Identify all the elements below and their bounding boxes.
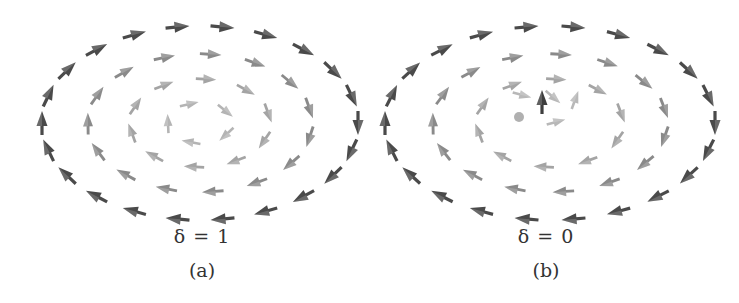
spin-arrow-icon	[501, 51, 524, 65]
vortex-core-dot-icon	[514, 112, 524, 122]
spin-arrow-icon	[143, 147, 165, 165]
vortex-diagram-b	[370, 0, 739, 230]
spin-arrow-icon	[432, 84, 453, 107]
spin-arrow-icon	[710, 111, 721, 135]
spin-arrow-icon	[83, 186, 109, 207]
core-spin-arrow-icon	[512, 88, 533, 101]
spin-arrow-icon	[341, 82, 361, 108]
spin-arrow-icon	[473, 95, 492, 117]
panel-a	[0, 0, 370, 230]
spin-arrow-icon	[468, 203, 494, 220]
spin-arrow-icon	[153, 51, 176, 65]
spin-arrow-icon	[546, 74, 567, 84]
spin-arrow-icon	[429, 39, 455, 60]
core-spin-arrow-icon	[546, 115, 567, 128]
panel-label-b: (b)	[486, 259, 606, 281]
spin-arrow-icon	[514, 213, 539, 226]
spin-arrow-icon	[210, 212, 235, 225]
spin-arrow-icon	[613, 102, 629, 124]
spin-arrow-icon	[255, 129, 274, 151]
spin-arrow-icon	[38, 82, 58, 108]
spin-arrow-icon	[380, 111, 391, 135]
spin-arrow-icon	[320, 58, 345, 83]
parameter-label-b: δ = 0	[486, 225, 606, 247]
panel-label-a: (a)	[142, 259, 262, 281]
spin-arrow-icon	[260, 102, 276, 124]
spin-arrow-icon	[461, 165, 485, 184]
spin-arrow-icon	[124, 122, 140, 144]
spin-arrow-icon	[577, 153, 599, 169]
spin-arrow-icon	[428, 113, 438, 135]
spin-arrow-icon	[55, 58, 80, 83]
spin-arrow-icon	[676, 58, 701, 82]
spin-arrow-icon	[459, 63, 483, 82]
spin-arrow-icon	[83, 113, 93, 135]
spin-arrow-icon	[471, 122, 487, 144]
vortex-diagram-a	[0, 0, 370, 230]
spin-arrow-icon	[181, 136, 201, 148]
spin-arrow-icon	[184, 162, 205, 172]
spin-arrow-icon	[210, 20, 235, 33]
panel-b	[370, 0, 739, 230]
spin-arrow-icon	[433, 140, 454, 163]
spin-arrow-icon	[165, 212, 190, 225]
spin-arrow-icon	[153, 77, 175, 93]
spin-arrow-icon	[290, 186, 316, 207]
spin-arrow-icon	[225, 153, 247, 169]
spin-arrow-icon	[645, 39, 671, 60]
spin-arrow-icon	[598, 174, 622, 190]
spin-arrow-icon	[353, 111, 364, 135]
spin-arrow-icon	[37, 111, 48, 135]
spin-arrow-icon	[87, 84, 108, 107]
spin-arrow-icon	[280, 152, 303, 174]
spin-arrow-icon	[491, 147, 513, 165]
spin-arrow-icon	[561, 20, 586, 33]
spin-arrow-icon	[606, 203, 632, 220]
spin-arrow-icon	[202, 186, 224, 197]
spin-arrow-icon	[290, 39, 316, 60]
parameter-label-a: δ = 1	[142, 225, 262, 247]
spin-arrow-icon	[216, 125, 236, 144]
core-spin-arrow-icon	[537, 90, 548, 114]
spin-arrow-icon	[676, 163, 701, 187]
spin-arrow-icon	[165, 20, 190, 33]
spin-arrow-icon	[121, 203, 147, 220]
spin-arrow-icon	[381, 137, 402, 163]
spin-arrow-icon	[126, 95, 145, 117]
spin-arrow-icon	[88, 140, 109, 163]
spin-arrow-icon	[468, 26, 494, 43]
spin-arrow-icon	[656, 96, 673, 120]
spin-arrow-icon	[550, 49, 572, 60]
spin-arrow-icon	[634, 152, 657, 173]
spin-arrow-icon	[399, 58, 424, 82]
spin-arrow-icon	[429, 186, 455, 207]
spin-arrow-icon	[632, 71, 655, 92]
spin-arrow-icon	[561, 213, 586, 226]
spin-arrow-icon	[243, 55, 267, 71]
spin-arrow-icon	[698, 137, 719, 163]
spin-arrow-icon	[656, 125, 672, 149]
spin-arrow-icon	[341, 137, 361, 163]
spin-arrow-icon	[245, 174, 269, 191]
spin-arrow-icon	[121, 26, 147, 43]
spin-arrow-icon	[608, 129, 627, 151]
spin-arrow-icon	[235, 81, 257, 99]
spin-arrow-icon	[253, 26, 279, 43]
spin-arrow-icon	[301, 96, 318, 120]
spin-arrow-icon	[279, 71, 302, 92]
spin-arrow-icon	[606, 26, 632, 43]
spin-arrow-icon	[253, 203, 279, 220]
spin-arrow-icon	[163, 114, 173, 134]
spin-arrow-icon	[587, 81, 609, 99]
spin-arrow-icon	[552, 186, 574, 197]
spin-arrow-icon	[200, 49, 222, 60]
spin-arrow-icon	[320, 163, 345, 188]
spin-arrow-icon	[215, 101, 235, 120]
spin-arrow-icon	[55, 163, 80, 188]
spin-arrow-icon	[196, 74, 217, 84]
spin-arrow-icon	[112, 63, 136, 82]
spin-arrow-icon	[179, 98, 200, 111]
spin-arrow-icon	[501, 77, 523, 93]
spin-arrow-icon	[83, 39, 109, 60]
spin-arrow-icon	[302, 125, 318, 149]
